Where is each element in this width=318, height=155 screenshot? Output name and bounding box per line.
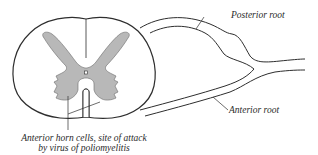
anterior-root-label: Anterior root [229, 106, 279, 116]
central-canal [85, 71, 88, 74]
anterior-horn-label-line2: by virus of poliomyelitis [4, 143, 164, 153]
anterior-root-inner [145, 70, 305, 116]
posterior-root-outer [140, 18, 305, 62]
posterior-root-inner [150, 26, 254, 69]
posterior-root-label: Posterior root [231, 11, 285, 21]
anterior-root-leader [213, 97, 228, 110]
anterior-fissure-inner [83, 89, 89, 117]
spinal-cord-diagram [0, 0, 318, 155]
anterior-root-outer [140, 69, 254, 110]
anterior-horn-label: Anterior horn cells, site of attack by v… [4, 133, 164, 153]
anterior-horn-label-line1: Anterior horn cells, site of attack [4, 133, 164, 143]
posterior-root-leader [196, 17, 204, 29]
